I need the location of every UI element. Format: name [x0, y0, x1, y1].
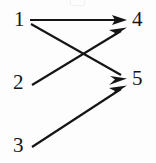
node-label-5: 5 [132, 68, 143, 89]
edge-1-to-4 [30, 15, 127, 25]
directed-graph-figure: 1 2 3 4 5 [0, 0, 156, 163]
node-label-1: 1 [14, 9, 25, 30]
edge-3-to-5 [32, 86, 127, 148]
node-label-4: 4 [132, 9, 143, 30]
edge-1-to-5-line [31, 24, 121, 75]
node-label-3: 3 [13, 135, 24, 156]
edge-2-to-4-line [32, 31, 121, 85]
edge-1-to-5-arrowhead [109, 76, 127, 85]
edge-3-to-5-line [32, 89, 121, 147]
node-label-2: 2 [13, 72, 24, 93]
edge-2-to-4 [32, 28, 127, 86]
